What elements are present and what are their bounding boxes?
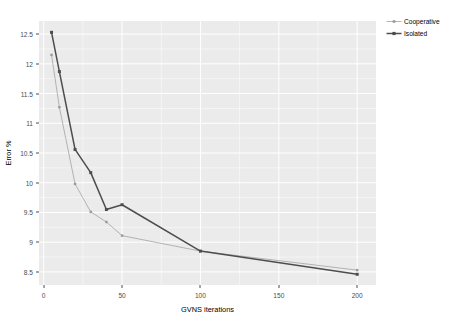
data-point-marker [356,269,358,271]
y-tick-label: 11 [26,120,33,127]
series-line-cooperative [52,55,358,270]
y-tick-label: 10 [26,179,33,186]
data-point-marker [199,250,202,253]
data-point-marker [356,273,359,276]
y-tick-label: 11.5 [21,90,33,97]
chart-legend: CooperativeIsolated [386,16,465,40]
x-tick-label: 200 [352,292,363,299]
y-tick-label: 12.5 [20,31,33,38]
y-tick-mark [36,34,39,35]
data-point-marker [50,31,53,34]
x-tick-mark [43,285,44,288]
y-tick-label: 9.5 [24,209,33,216]
x-tick-label: 150 [273,292,284,299]
y-tick-mark [36,153,39,154]
legend-item-cooperative[interactable]: Cooperative [386,16,465,27]
data-point-marker [58,70,61,73]
data-point-marker [89,171,92,174]
data-point-marker [105,221,107,223]
y-tick-mark [36,123,39,124]
y-tick-mark [36,242,39,243]
y-tick-mark [36,212,39,213]
chart-figure: 8.599.51010.51111.51212.5 050100150200 G… [0,0,465,329]
legend-item-isolated[interactable]: Isolated [386,28,465,39]
legend-key-icon [386,28,402,39]
x-tick-label: 50 [118,292,125,299]
data-point-marker [74,148,77,151]
y-tick-mark [36,271,39,272]
grid-major [39,21,376,285]
y-tick-mark [36,93,39,94]
plot-canvas [39,21,376,285]
data-point-marker [90,211,92,213]
x-tick-label: 0 [42,292,46,299]
y-tick-mark [36,63,39,64]
y-axis-title: Error % [4,140,13,165]
x-tick-mark [122,285,123,288]
x-tick-label: 100 [195,292,206,299]
plot-panel [39,21,376,285]
x-tick-mark [357,285,358,288]
legend-label: Cooperative [402,18,440,25]
y-tick-label: 8.5 [24,268,33,275]
legend-label: Isolated [402,30,427,37]
x-tick-mark [200,285,201,288]
data-point-marker [121,203,124,206]
data-point-marker [50,54,52,56]
legend-key-icon [386,16,402,27]
y-tick-label: 12 [26,60,33,67]
y-tick-label: 10.5 [20,150,33,157]
data-point-marker [121,234,123,236]
y-tick-label: 9 [29,239,33,246]
x-axis-title: GVNS iterations [39,305,376,314]
data-point-marker [105,208,108,211]
x-tick-mark [278,285,279,288]
data-point-marker [58,106,60,108]
series-cooperative [50,54,358,272]
data-point-marker [74,183,76,185]
y-tick-mark [36,182,39,183]
